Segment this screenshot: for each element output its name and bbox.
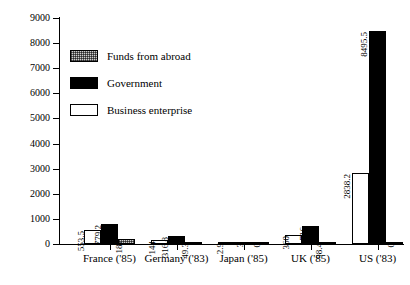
chart-legend: Funds from abroadGovernmentBusiness ente… bbox=[70, 46, 192, 127]
bar-value-label: 144 bbox=[143, 224, 152, 240]
y-axis-tick-label: 1000 bbox=[30, 214, 50, 224]
bar-abroad: 98.4 bbox=[319, 242, 336, 244]
bar-value-text: 8495.5 bbox=[360, 30, 369, 57]
y-axis-tick bbox=[53, 194, 60, 195]
legend-swatch-government bbox=[70, 77, 98, 89]
y-axis-tick bbox=[53, 144, 60, 145]
bar-business: 2838.2 bbox=[352, 173, 369, 244]
y-axis-tick bbox=[53, 219, 60, 220]
y-axis-tick bbox=[53, 68, 60, 69]
bar-value-label: 2.9 bbox=[211, 228, 220, 241]
bar-value-text: 779.2 bbox=[94, 223, 103, 245]
bar-value-label: 3 bbox=[231, 235, 240, 242]
legend-label: Government bbox=[107, 77, 162, 89]
bar-abroad: 49.3 bbox=[185, 242, 202, 244]
legend-item: Government bbox=[70, 73, 192, 93]
bar-value-label: 716 bbox=[294, 210, 303, 226]
bar-value-label: 0 bbox=[382, 235, 391, 242]
x-axis-tick bbox=[110, 245, 111, 250]
x-axis-tick bbox=[378, 245, 379, 250]
legend-label: Funds from abroad bbox=[107, 50, 191, 62]
bar-value-text: 3 bbox=[236, 241, 245, 248]
bar-value-text: 2838.2 bbox=[343, 172, 352, 199]
bar-value-label: 779.2 bbox=[89, 201, 98, 223]
y-axis-tick bbox=[53, 43, 60, 44]
x-axis-tick bbox=[177, 245, 178, 250]
legend-item: Funds from abroad bbox=[70, 46, 192, 66]
y-axis-tick-label: 0 bbox=[45, 239, 50, 249]
y-axis-tick-label: 9000 bbox=[30, 13, 50, 23]
bar-value-text: 0 bbox=[253, 241, 262, 248]
legend-item: Business enterprise bbox=[70, 100, 192, 120]
bar-value-label: 316.8 bbox=[156, 213, 165, 235]
y-axis-tick-label: 7000 bbox=[30, 63, 50, 73]
bar-government: 8495.5 bbox=[369, 31, 386, 244]
legend-label: Business enterprise bbox=[107, 104, 192, 116]
x-axis-tick bbox=[311, 245, 312, 250]
y-axis-tick-label: 6000 bbox=[30, 88, 50, 98]
y-axis-tick bbox=[53, 18, 60, 19]
bar-abroad: 0 bbox=[386, 242, 403, 244]
y-axis-tick bbox=[53, 118, 60, 119]
legend-swatch-abroad bbox=[70, 50, 98, 62]
y-axis-tick bbox=[53, 169, 60, 170]
y-axis-tick bbox=[53, 244, 60, 245]
bar-value-label: 360 bbox=[277, 218, 286, 234]
bar-value-text: 360 bbox=[281, 234, 290, 250]
bar-chart: 0100020003000400050006000700080009000 55… bbox=[0, 0, 410, 285]
bar-value-text: 553.5 bbox=[77, 229, 86, 251]
y-axis-tick-label: 4000 bbox=[30, 139, 50, 149]
x-axis-category-label: US ('83) bbox=[333, 252, 410, 264]
bar-value-label: 8495.5 bbox=[355, 3, 364, 30]
legend-swatch-business bbox=[70, 104, 98, 116]
bar-abroad: 187 bbox=[118, 239, 135, 244]
bar-value-text: 716 bbox=[298, 225, 307, 241]
bar-value-text: 0 bbox=[387, 241, 396, 248]
y-axis-tick bbox=[53, 93, 60, 94]
bar-value-label: 49.3 bbox=[176, 223, 185, 241]
bar-business: 2.9 bbox=[218, 242, 235, 244]
y-axis-tick-label: 5000 bbox=[30, 113, 50, 123]
y-axis-tick-label: 2000 bbox=[30, 189, 50, 199]
bar-value-label: 98.4 bbox=[310, 223, 319, 241]
y-axis-tick-label: 8000 bbox=[30, 38, 50, 48]
bar-value-label: 553.5 bbox=[72, 207, 81, 229]
bar-government: 3 bbox=[235, 242, 252, 244]
bar-value-label: 0 bbox=[248, 235, 257, 242]
bar-value-label: 187 bbox=[110, 223, 119, 239]
y-axis-tick-label: 3000 bbox=[30, 164, 50, 174]
bar-value-label: 2838.2 bbox=[338, 145, 347, 172]
bar-abroad: 0 bbox=[252, 242, 269, 244]
